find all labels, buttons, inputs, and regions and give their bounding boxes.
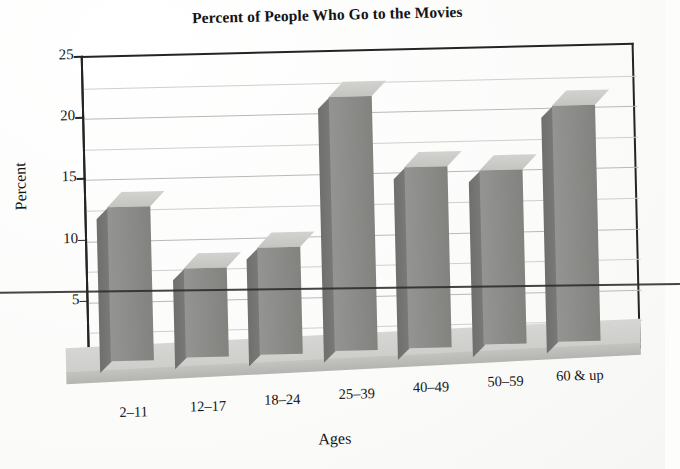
bar — [107, 191, 154, 361]
bar — [479, 154, 526, 345]
y-tick — [79, 301, 88, 303]
bar — [257, 231, 303, 354]
y-tick-label: 25 — [33, 46, 73, 64]
y-tick — [77, 178, 86, 180]
chart-title: Percent of People Who Go to the Movies — [0, 0, 660, 32]
x-tick-label: 60 & up — [536, 366, 623, 385]
y-tick-label: 5 — [39, 291, 79, 309]
bar-front-face — [552, 105, 601, 342]
y-tick — [75, 117, 84, 119]
bar — [183, 253, 228, 358]
bar — [328, 81, 377, 351]
y-tick-labels: 25 20 15 10 5 0 — [24, 56, 81, 363]
y-tick — [78, 239, 87, 241]
bar-front-face — [328, 96, 377, 351]
y-tick — [74, 56, 83, 58]
y-tick-label: 15 — [36, 168, 76, 186]
bar — [552, 90, 601, 342]
scan-skew-wrapper: Percent of People Who Go to the Movies P… — [0, 0, 670, 469]
bar-front-face — [404, 166, 451, 348]
bar-front-face — [479, 169, 526, 345]
bar — [404, 151, 452, 348]
x-axis-title: Ages — [255, 428, 415, 450]
bar-front-face — [107, 206, 154, 361]
y-tick-label: 10 — [38, 230, 78, 248]
bar-front-face — [257, 246, 303, 354]
bar-front-face — [183, 268, 228, 358]
y-tick-label: 20 — [35, 107, 75, 125]
